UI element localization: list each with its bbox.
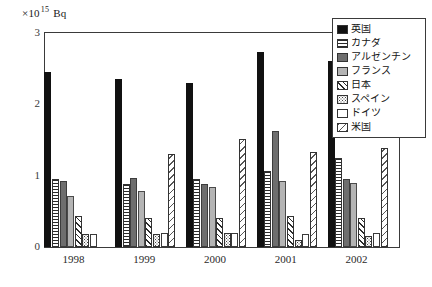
y-axis-tick-label: 1 xyxy=(2,170,40,181)
legend-item-label: スペイン xyxy=(351,94,390,104)
bar xyxy=(335,158,342,247)
bar xyxy=(310,152,317,247)
bar xyxy=(168,154,175,247)
bar xyxy=(193,179,200,247)
x-axis-tick-label: 2002 xyxy=(335,252,379,266)
legend-item[interactable]: ドイツ xyxy=(337,106,422,120)
legend-item[interactable]: 日本 xyxy=(337,78,422,92)
legend-swatch-icon xyxy=(337,67,348,76)
bar xyxy=(224,233,231,247)
bar xyxy=(381,148,388,247)
bar xyxy=(257,52,264,247)
legend-swatch-icon xyxy=(337,25,348,34)
legend: 英国カナダアルゼンチンフランス日本スペインドイツ米国 xyxy=(332,18,426,138)
bar xyxy=(231,233,238,247)
bar-group xyxy=(187,33,258,247)
bar-group xyxy=(116,33,187,247)
bar xyxy=(365,236,372,247)
bar-group xyxy=(45,33,116,247)
bar xyxy=(272,131,279,247)
bar xyxy=(295,240,302,247)
bar xyxy=(264,171,271,247)
bar xyxy=(186,83,193,247)
bar xyxy=(67,196,74,247)
bar xyxy=(216,218,223,247)
y-axis-unit-caption: ×1015Bq xyxy=(22,4,66,19)
unit-exponent: 15 xyxy=(41,5,49,14)
bar xyxy=(343,179,350,247)
x-axis-tick-label: 2001 xyxy=(264,252,308,266)
y-axis-tick-label: 3 xyxy=(2,27,40,38)
legend-swatch-icon xyxy=(337,109,348,118)
bar xyxy=(44,72,51,247)
bar xyxy=(239,139,246,247)
bar xyxy=(358,218,365,247)
bar xyxy=(145,218,152,247)
unit-symbol: Bq xyxy=(53,7,66,19)
bar xyxy=(153,234,160,247)
bar xyxy=(201,184,208,247)
legend-swatch-icon xyxy=(337,39,348,48)
bar xyxy=(52,179,59,247)
legend-item[interactable]: 英国 xyxy=(337,22,422,36)
legend-item-label: ドイツ xyxy=(351,108,381,118)
bar xyxy=(75,216,82,247)
bar xyxy=(82,234,89,247)
y-axis-tick-label: 2 xyxy=(2,98,40,109)
x-axis: 19981999200020012002 xyxy=(44,252,400,270)
bar-group xyxy=(257,33,328,247)
bar xyxy=(209,187,216,247)
legend-item-label: 日本 xyxy=(351,80,371,90)
bar xyxy=(123,184,130,247)
y-axis: 0123 xyxy=(0,32,40,248)
bar xyxy=(279,181,286,247)
bar xyxy=(138,191,145,247)
y-axis-tick-label: 0 xyxy=(2,241,40,252)
bar xyxy=(90,234,97,247)
bar xyxy=(60,181,67,247)
bar xyxy=(115,79,122,247)
legend-item-label: フランス xyxy=(351,66,391,76)
bar xyxy=(350,183,357,247)
legend-item[interactable]: 米国 xyxy=(337,120,422,134)
bar xyxy=(130,178,137,247)
bar-chart: ×1015Bq 0123 19981999200020012002 英国カナダア… xyxy=(0,0,432,287)
legend-swatch-icon xyxy=(337,81,348,90)
bar xyxy=(373,233,380,247)
legend-item-label: アルゼンチン xyxy=(351,52,411,62)
legend-swatch-icon xyxy=(337,95,348,104)
x-axis-tick-label: 1998 xyxy=(51,252,95,266)
legend-item[interactable]: カナダ xyxy=(337,36,422,50)
bar xyxy=(161,233,168,247)
legend-item-label: 米国 xyxy=(351,122,371,132)
legend-item-label: カナダ xyxy=(351,38,381,48)
legend-item[interactable]: フランス xyxy=(337,64,422,78)
bar xyxy=(287,216,294,247)
legend-item[interactable]: スペイン xyxy=(337,92,422,106)
bar xyxy=(302,234,309,247)
legend-item[interactable]: アルゼンチン xyxy=(337,50,422,64)
legend-item-label: 英国 xyxy=(351,24,371,34)
x-axis-tick-label: 2000 xyxy=(193,252,237,266)
unit-multiplier: ×10 xyxy=(22,7,40,19)
legend-swatch-icon xyxy=(337,123,348,132)
legend-swatch-icon xyxy=(337,53,348,62)
x-axis-tick-label: 1999 xyxy=(122,252,166,266)
